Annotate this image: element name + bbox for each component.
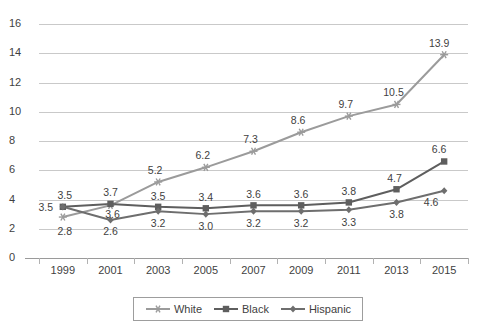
marker-star xyxy=(59,214,67,221)
data-point-label: 9.7 xyxy=(339,98,354,110)
marker-diamond xyxy=(393,199,399,206)
legend-swatch-star-icon xyxy=(145,303,171,315)
line-chart: 0246810121416 3.53.52.83.73.62.65.23.53.… xyxy=(0,0,493,330)
data-point-label: 3.7 xyxy=(103,186,118,198)
data-point-label: 10.5 xyxy=(383,86,403,98)
data-point-label: 6.2 xyxy=(196,149,211,161)
marker-square xyxy=(393,186,399,192)
y-axis-tick-label: 6 xyxy=(9,164,39,175)
marker-square xyxy=(441,158,447,164)
x-axis-line xyxy=(25,258,468,259)
legend-item-hispanic[interactable]: Hispanic xyxy=(280,303,351,315)
marker-diamond xyxy=(441,187,447,194)
marker-diamond xyxy=(203,211,209,218)
marker-star xyxy=(154,306,162,313)
y-axis-tick-label: 2 xyxy=(9,223,39,234)
data-point-label: 5.2 xyxy=(148,164,163,176)
legend-swatch-square-icon xyxy=(213,303,239,315)
data-point-label: 8.6 xyxy=(291,114,306,126)
data-point-label: 3.6 xyxy=(105,208,120,220)
marker-diamond xyxy=(250,208,256,215)
marker-diamond xyxy=(298,208,304,215)
marker-square xyxy=(298,202,304,208)
y-axis-tick-label: 4 xyxy=(9,194,39,205)
legend-item-white[interactable]: White xyxy=(145,303,202,315)
legend-label: White xyxy=(174,304,202,315)
marker-square xyxy=(346,199,352,205)
data-point-label: 3.5 xyxy=(39,201,54,213)
data-point-label: 3.0 xyxy=(199,220,214,232)
marker-square xyxy=(203,205,209,211)
legend-label: Black xyxy=(242,304,269,315)
data-point-label: 4.6 xyxy=(424,196,439,208)
data-point-label: 2.6 xyxy=(103,225,118,237)
marker-star xyxy=(297,129,305,136)
y-axis-tick-label: 8 xyxy=(9,135,39,146)
y-axis-tick-label: 12 xyxy=(9,77,39,88)
legend-label: Hispanic xyxy=(309,304,351,315)
data-point-label: 6.6 xyxy=(432,143,447,155)
marker-diamond xyxy=(346,206,352,213)
marker-star xyxy=(250,148,258,155)
data-point-label: 3.2 xyxy=(246,217,261,229)
marker-square xyxy=(223,306,229,312)
data-point-label: 13.9 xyxy=(429,37,449,49)
marker-square xyxy=(250,202,256,208)
data-point-label: 4.7 xyxy=(387,172,402,184)
data-point-label: 3.4 xyxy=(199,191,214,203)
legend-item-black[interactable]: Black xyxy=(213,303,269,315)
data-point-label: 3.2 xyxy=(294,217,309,229)
y-axis-tick-label: 14 xyxy=(9,47,39,58)
data-point-label: 3.6 xyxy=(246,188,261,200)
y-axis-labels: 0246810121416 xyxy=(5,0,39,330)
marker-star xyxy=(202,164,210,171)
marker-diamond xyxy=(290,305,296,312)
data-point-label: 3.6 xyxy=(294,188,309,200)
y-axis-tick-label: 10 xyxy=(9,106,39,117)
data-point-label: 3.2 xyxy=(151,217,166,229)
data-point-label: 3.8 xyxy=(389,208,404,220)
marker-star xyxy=(345,113,353,120)
data-point-label: 7.3 xyxy=(243,133,258,145)
x-axis-tick-label: 2015 xyxy=(414,264,474,276)
marker-square xyxy=(107,201,113,207)
data-point-label: 3.5 xyxy=(58,189,73,201)
data-point-label: 3.5 xyxy=(151,190,166,202)
legend-swatch-diamond-icon xyxy=(280,303,306,315)
chart-legend: WhiteBlackHispanic xyxy=(133,297,363,321)
data-point-label: 3.3 xyxy=(342,216,357,228)
plot-area: 3.53.52.83.73.62.65.23.53.26.23.43.07.33… xyxy=(39,24,468,258)
data-point-label: 3.8 xyxy=(342,185,357,197)
y-axis-tick-label: 16 xyxy=(9,18,39,29)
data-point-label: 2.8 xyxy=(58,225,73,237)
